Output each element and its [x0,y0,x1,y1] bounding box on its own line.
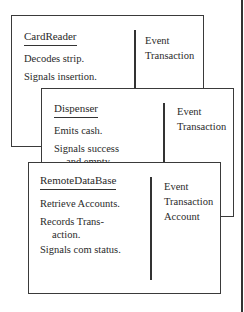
responsibility: Records Trans- [40,215,121,228]
card-class-name: CardReader [24,30,77,46]
responsibility: Signals com status. [40,243,121,256]
card-collaborators: Event Transaction [145,33,194,63]
card-collaborators: Event Transaction Account [164,179,213,224]
page-edge-line [241,0,243,312]
responsibility: Emits cash. [54,124,119,137]
collaborator: Transaction [145,48,194,63]
responsibility: action. [40,228,121,241]
collaborator: Event [177,104,226,119]
collaborator: Transaction [164,194,213,209]
card-collaborators: Event Transaction [177,104,226,134]
collaborator: Event [145,33,194,48]
collaborator: Transaction [177,119,226,134]
responsibility: Decodes strip. [24,52,97,65]
crc-card-remotedatabase: RemoteDataBase Retrieve Accounts. Record… [28,162,221,294]
collaborator: Event [164,179,213,194]
card-class-name: RemoteDataBase [40,174,116,190]
collaborator: Account [164,209,213,224]
responsibility: Signals insertion. [24,70,97,83]
card-responsibilities: Decodes strip. Signals insertion. [24,52,97,83]
card-divider [150,177,152,280]
card-responsibilities: Retrieve Accounts. Records Trans- action… [40,197,121,256]
responsibility: Signals success [54,142,119,155]
card-class-name: Dispenser [54,102,98,118]
responsibility: Retrieve Accounts. [40,197,121,210]
